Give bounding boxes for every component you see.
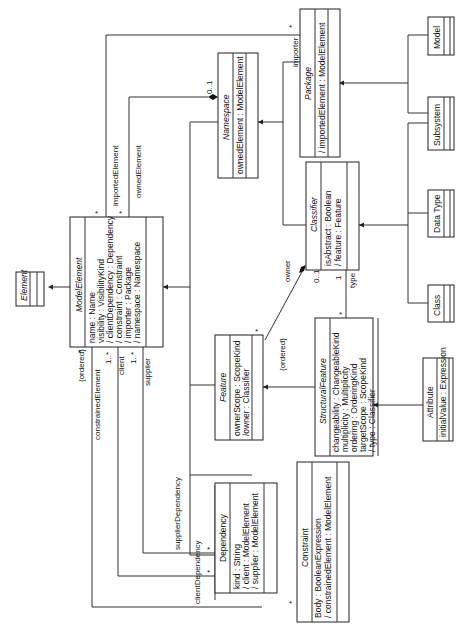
class-name: Constraint [300,528,310,567]
attribute: ownedElement : ModelElement [235,56,245,174]
multiplicity: * [119,209,122,218]
multiplicity: 1..* [129,352,138,364]
multiplicity: 1 [334,275,343,280]
class-name: StructuralFeature [318,358,328,424]
class-classifier[interactable]: Classifier isAbstract : Boolean / featur… [306,162,359,270]
attribute: / supplier : ModelElement [250,492,260,589]
multiplicity: * [207,568,210,577]
role-owned-element: ownedElement [134,144,143,198]
class-name: Feature [218,372,228,402]
attribute: Body : BooleanExpression [313,518,323,618]
class-class[interactable]: Class [428,285,454,322]
multiplicity: * [339,310,342,319]
class-namespace[interactable]: Namespace ownedElement : ModelElement [218,53,258,178]
attribute: / feature : Feature [333,198,343,266]
class-package[interactable]: Package / importedElement : ModelElement [300,9,340,157]
multiplicity: * [289,23,292,32]
attribute: / importedElement : ModelElement [317,22,327,153]
attribute: initialValue : Expression [438,347,448,437]
multiplicity: 0..1 [205,80,214,94]
class-structural-feature[interactable]: StructuralFeature changeability : Change… [315,318,378,456]
class-name: Namespace [221,94,231,140]
multiplicity: * [255,327,258,336]
class-subsystem[interactable]: Subsystem [428,97,454,150]
class-name: Package [303,67,313,100]
class-data-type[interactable]: Data Type [428,190,454,237]
class-name: Model [432,26,442,49]
role-type: type [348,272,357,288]
class-name: Subsystem [432,104,442,146]
attribute: isAbstract : Boolean [323,190,333,266]
class-feature[interactable]: Feature ownerScope : ScopeKind /owner : … [215,335,263,440]
role-constrained-element: constrainedElement [93,369,102,440]
multiplicity: * [78,348,81,357]
arrowhead-icon [48,285,53,290]
class-element[interactable]: Element [16,269,44,306]
class-model-element[interactable]: ModelElement name : Name visibility : Vi… [70,215,163,347]
multiplicity: * [207,545,210,554]
role-client-dependency: clientDependency [193,540,202,604]
class-name: Classifier [309,196,319,232]
role-supplier: supplier [143,358,152,386]
ordered-constraint: {ordered} [278,338,287,371]
class-name: Element [19,269,29,301]
attribute: / constrainedElement : ModelElement [323,476,333,618]
multiplicity: 1..* [104,352,113,364]
class-dependency[interactable]: Dependency kind : String / client : Mode… [215,483,277,593]
uml-class-diagram: Element ModelElement name : Name visibil… [0,0,474,627]
arrowhead-icon [163,285,168,290]
attribute: /owner : Classifier [241,368,251,436]
class-name: Class [432,295,442,316]
attribute: / type : Classifier [367,389,377,452]
class-name: Dependency [218,514,228,562]
class-constraint[interactable]: Constraint Body : BooleanExpression / co… [297,462,349,622]
role-importer: importer [291,37,300,67]
class-model[interactable]: Model [428,17,454,55]
multiplicity: 0..1 [312,269,321,283]
multiplicity: * [289,599,292,608]
class-name: ModelElement [74,257,84,312]
role-owner: owner [283,260,292,282]
generalization-package-namespace [258,62,300,122]
role-client: client [117,356,126,375]
class-name: Data Type [432,194,442,233]
multiplicity: * [95,209,98,218]
class-attribute[interactable]: Attribute initialValue : Expression [423,347,453,441]
attribute: / namespace : Namespace [132,242,142,343]
role-imported-element: importedElement [111,145,120,206]
class-name: Attribute [425,386,435,418]
role-supplier-dependency: supplierDependency [173,477,182,550]
